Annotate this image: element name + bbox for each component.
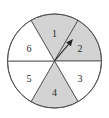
sector-label-5: 5 <box>27 73 32 84</box>
sector-label-2: 2 <box>78 43 83 54</box>
spinner-diagram: 1 2 3 4 5 6 <box>0 0 109 118</box>
sector-label-4: 4 <box>52 87 57 98</box>
sector-label-1: 1 <box>52 28 57 39</box>
sector-label-3: 3 <box>78 73 83 84</box>
sector-label-6: 6 <box>27 43 32 54</box>
